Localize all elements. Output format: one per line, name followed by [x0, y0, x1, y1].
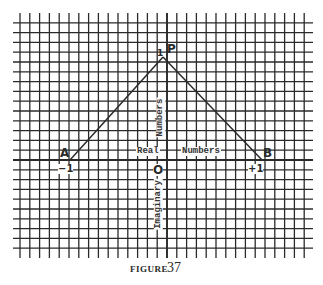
origin-label: O — [153, 164, 163, 176]
figure-caption-word: FIGURE — [130, 265, 168, 274]
real-axis-label-1: Real — [136, 147, 160, 156]
point-b-label: B — [263, 147, 272, 159]
point-a-label: A — [60, 147, 69, 159]
point-p-label: P — [167, 43, 176, 55]
imaginary-axis-label-lower: Imaginary — [154, 179, 163, 230]
figure-caption-number: 37 — [167, 261, 181, 275]
point-b-value: +1 — [248, 164, 263, 174]
imaginary-axis-label-upper: Numbers — [156, 98, 165, 138]
figure-37: A −1 B +1 P 1 O Real Numbers Numbers Ima… — [0, 0, 323, 285]
point-p-value: 1 — [157, 49, 163, 58]
real-axis-label-2: Numbers — [181, 147, 221, 156]
point-a-value: −1 — [58, 164, 73, 174]
grid-paper — [0, 0, 323, 285]
